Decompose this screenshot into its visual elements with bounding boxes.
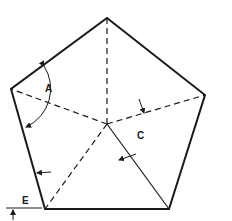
radial-lines — [11, 18, 205, 209]
angle-e-marker — [6, 208, 42, 220]
pentagon-diagram: A C E — [0, 0, 232, 221]
pentagon-outline — [11, 18, 205, 209]
label-a: A — [45, 83, 52, 94]
label-c: C — [137, 130, 144, 141]
radial-line-bottom-left — [45, 124, 107, 209]
angle-marker-right — [139, 99, 144, 113]
radial-line-right — [107, 95, 205, 124]
radial-line-left — [11, 89, 107, 124]
angle-marker-bottom-right — [119, 154, 136, 160]
angle-marker-left-edge — [37, 172, 51, 173]
label-e: E — [22, 195, 29, 206]
